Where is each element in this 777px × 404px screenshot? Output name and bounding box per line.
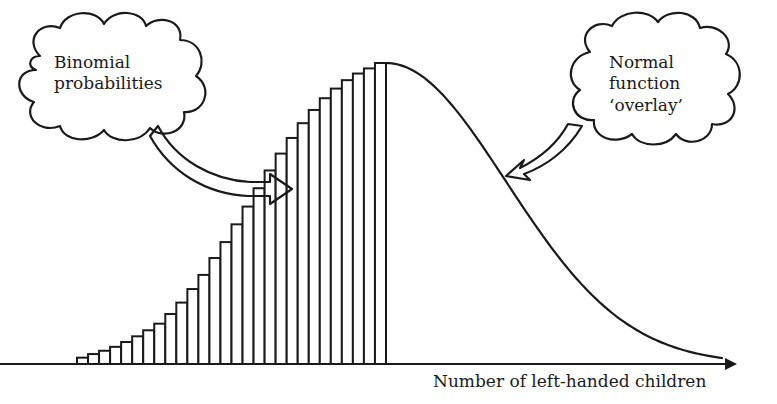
histogram-bar [121, 342, 132, 364]
histogram-bar [110, 347, 121, 364]
histogram-bar [198, 275, 209, 364]
histogram-bar [298, 123, 309, 364]
histogram-bar [143, 330, 154, 364]
x-axis-arrowhead-icon [725, 358, 737, 370]
histogram-bar [375, 63, 386, 364]
callout-binomial-text: Binomial probabilities [54, 52, 163, 95]
histogram-bar [342, 80, 353, 364]
histogram-bar [287, 138, 298, 364]
histogram-bar [254, 188, 265, 364]
histogram-bar [331, 89, 342, 364]
histogram-bar [232, 224, 243, 364]
x-axis-label: Number of left-handed children [433, 371, 706, 392]
histogram-bar [243, 207, 254, 364]
arrow-to-normal-curve [506, 124, 582, 180]
callout-normal-line-1: Normal [609, 52, 683, 73]
histogram-bar [353, 74, 364, 364]
histogram-bar [364, 68, 375, 364]
histogram-bar [209, 258, 220, 364]
histogram-bar [132, 336, 143, 364]
callout-normal-text: Normal function ‘overlay’ [609, 52, 683, 116]
histogram-bar [154, 324, 165, 364]
callout-binomial-line-1: Binomial [54, 52, 163, 73]
histogram-bar [309, 110, 320, 364]
histogram-bar [187, 289, 198, 364]
callout-normal-line-2: function [609, 73, 683, 94]
callout-normal-line-3: ‘overlay’ [609, 95, 683, 116]
histogram-bar [176, 303, 187, 364]
histogram-bar [220, 242, 231, 364]
binomial-histogram [77, 63, 386, 364]
histogram-bar [88, 354, 99, 364]
histogram-bar [99, 351, 110, 364]
histogram-bar [320, 98, 331, 364]
callout-binomial-line-2: probabilities [54, 73, 163, 94]
histogram-bar [165, 314, 176, 364]
